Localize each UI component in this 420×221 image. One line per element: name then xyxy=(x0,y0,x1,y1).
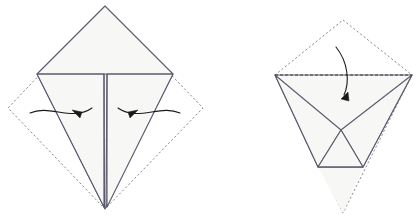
left-flap-panel xyxy=(37,74,104,207)
step-right xyxy=(275,20,412,213)
right-flap-panel xyxy=(107,74,173,207)
ghost-bottom-fill xyxy=(318,167,363,213)
center-crease-left xyxy=(104,74,105,208)
step-left xyxy=(8,6,203,209)
origami-diagram xyxy=(0,0,420,221)
diagram-canvas xyxy=(0,0,420,221)
